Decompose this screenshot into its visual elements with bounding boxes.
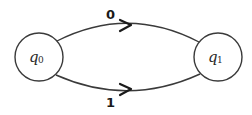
state-label-sub: 0	[38, 55, 44, 65]
arrow-head-bottom	[120, 84, 131, 95]
state-q0: q 0	[15, 33, 63, 81]
state-q1: q 1	[194, 33, 242, 81]
arrow-head-top	[120, 20, 131, 31]
edge-label-bottom: 1	[106, 95, 115, 110]
edge-label-top: 0	[106, 7, 115, 22]
state-label-sub: 1	[217, 55, 223, 65]
automaton-diagram: 0 1 q 0 q 1	[0, 0, 252, 115]
